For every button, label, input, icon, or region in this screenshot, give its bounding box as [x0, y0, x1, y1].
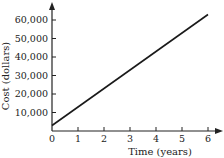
y-tick-labels: 10,000 20,000 30,000 40,000 50,000 60,00… [15, 14, 48, 118]
y-axis-arrow-icon [49, 2, 55, 10]
x-tick-label: 5 [179, 133, 185, 144]
y-tick-label: 30,000 [15, 70, 48, 81]
y-tick-label: 20,000 [15, 88, 48, 99]
y-tick-label: 10,000 [15, 107, 48, 118]
line-chart: 10,000 20,000 30,000 40,000 50,000 60,00… [0, 0, 224, 158]
x-tick-labels: 0 1 2 3 4 5 6 [49, 133, 211, 144]
cost-line [52, 15, 208, 126]
y-tick-label: 50,000 [15, 33, 48, 44]
x-tick-label: 0 [49, 133, 55, 144]
x-axis-title: Time (years) [128, 146, 192, 157]
y-tick-label: 40,000 [15, 51, 48, 62]
x-tick-label: 1 [75, 133, 81, 144]
y-axis-title: Cost (dollars) [0, 42, 11, 111]
x-tick-label: 4 [153, 133, 159, 144]
x-tick-label: 6 [205, 133, 211, 144]
x-tick-label: 3 [127, 133, 133, 144]
y-tick-label: 60,000 [15, 14, 48, 25]
x-tick-label: 2 [101, 133, 107, 144]
x-axis-arrow-icon [215, 128, 223, 134]
